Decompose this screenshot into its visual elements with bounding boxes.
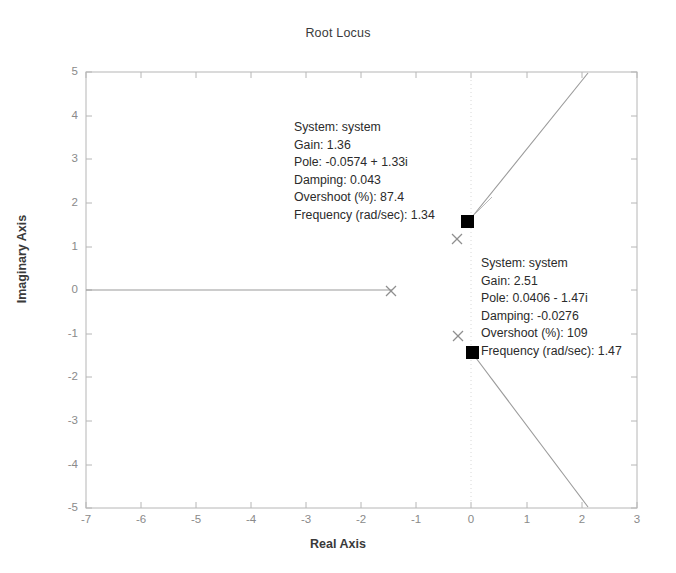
datatip-damping: Damping: 0.043 xyxy=(294,172,435,190)
page-title: Root Locus xyxy=(0,26,676,40)
selected-pole-marker-upper[interactable] xyxy=(461,215,474,228)
x-tick-label-3: -4 xyxy=(236,513,266,525)
datatip-system: System: system xyxy=(294,119,435,137)
x-tick-label-8: 1 xyxy=(512,513,542,525)
y-tick-label-4: 1 xyxy=(52,240,78,252)
y-tick-label-3: 2 xyxy=(52,196,78,208)
y-axis-label: Imaginary Axis xyxy=(15,179,29,339)
x-tick-label-7: 0 xyxy=(456,513,486,525)
y-tick-label-5: 0 xyxy=(52,283,78,295)
x-tick-label-0: -7 xyxy=(71,513,101,525)
y-tick-label-6: -1 xyxy=(52,327,78,339)
datatip-overshoot: Overshoot (%): 87.4 xyxy=(294,189,435,207)
datatip-frequency: Frequency (rad/sec): 1.34 xyxy=(294,207,435,225)
selected-pole-marker-lower[interactable] xyxy=(466,346,479,359)
x-tick-label-10: 3 xyxy=(622,513,652,525)
x-tick-label-6: -1 xyxy=(401,513,431,525)
x-tick-label-5: -2 xyxy=(346,513,376,525)
x-tick-label-4: -3 xyxy=(291,513,321,525)
datatip-pole: Pole: -0.0574 + 1.33i xyxy=(294,154,435,172)
datatip-frequency: Frequency (rad/sec): 1.47 xyxy=(481,343,622,361)
x-tick-label-1: -6 xyxy=(126,513,156,525)
x-tick-label-2: -5 xyxy=(181,513,211,525)
datatip-system: System: system xyxy=(481,255,622,273)
y-tick-label-7: -2 xyxy=(52,370,78,382)
y-tick-label-1: 4 xyxy=(52,109,78,121)
datatip-damping: Damping: -0.0276 xyxy=(481,308,622,326)
datatip-upper-pole[interactable]: System: system Gain: 1.36 Pole: -0.0574 … xyxy=(294,119,435,225)
x-axis-label: Real Axis xyxy=(0,537,676,551)
datatip-pole: Pole: 0.0406 - 1.47i xyxy=(481,290,622,308)
y-tick-label-10: -5 xyxy=(52,501,78,513)
datatip-lower-pole[interactable]: System: system Gain: 2.51 Pole: 0.0406 -… xyxy=(481,255,622,361)
y-tick-label-2: 3 xyxy=(52,152,78,164)
datatip-gain: Gain: 1.36 xyxy=(294,137,435,155)
y-tick-label-8: -3 xyxy=(52,414,78,426)
x-tick-label-9: 2 xyxy=(567,513,597,525)
datatip-gain: Gain: 2.51 xyxy=(481,273,622,291)
datatip-overshoot: Overshoot (%): 109 xyxy=(481,325,622,343)
root-locus-figure: Root Locus Real Axis Imaginary Axis -7 -… xyxy=(0,0,676,573)
y-tick-label-9: -4 xyxy=(52,458,78,470)
y-tick-label-0: 5 xyxy=(52,65,78,77)
